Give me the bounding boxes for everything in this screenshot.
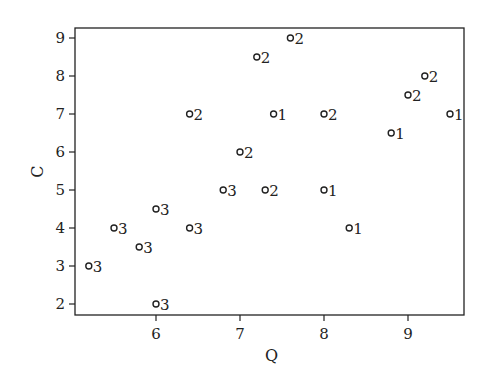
open-circle-marker (271, 111, 277, 117)
open-circle-marker (262, 187, 268, 193)
y-tick-label: 7 (55, 105, 65, 123)
point-group-label: 3 (118, 220, 128, 238)
open-circle-marker (237, 149, 243, 155)
point-group-label: 2 (412, 87, 422, 105)
y-tick-label: 9 (55, 29, 65, 47)
y-tick-label: 8 (55, 67, 65, 85)
data-point: 3 (187, 220, 204, 238)
open-circle-marker (287, 35, 293, 41)
open-circle-marker (153, 301, 159, 307)
point-group-label: 3 (143, 239, 153, 257)
x-tick-label: 8 (319, 325, 329, 343)
data-point: 2 (262, 182, 279, 200)
x-tick-label: 9 (403, 325, 413, 343)
point-group-label: 1 (328, 182, 338, 200)
open-circle-marker (447, 111, 453, 117)
plot-frame (75, 28, 464, 315)
open-circle-marker (220, 187, 226, 193)
point-group-label: 2 (244, 144, 254, 162)
data-point: 3 (153, 296, 170, 314)
data-point: 1 (271, 106, 288, 124)
data-point: 3 (86, 258, 103, 276)
open-circle-marker (388, 130, 394, 136)
point-group-label: 2 (194, 106, 204, 124)
data-point: 2 (237, 144, 254, 162)
point-group-label: 2 (294, 30, 304, 48)
y-tick-label: 4 (55, 219, 65, 237)
point-group-label: 1 (278, 106, 288, 124)
data-points: 33333323222122111221 (86, 30, 464, 314)
open-circle-marker (111, 225, 117, 231)
open-circle-marker (187, 225, 193, 231)
data-point: 1 (346, 220, 363, 238)
x-tick-label: 7 (235, 325, 245, 343)
point-group-label: 2 (269, 182, 279, 200)
data-point: 2 (287, 30, 304, 48)
point-group-label: 1 (395, 125, 405, 143)
point-group-label: 1 (454, 106, 464, 124)
point-group-label: 2 (429, 68, 439, 86)
data-point: 3 (153, 201, 170, 219)
y-tick-label: 5 (55, 181, 65, 199)
scatter-chart: 6789 23456789 Q C 33333323222122111221 (0, 0, 495, 385)
data-point: 2 (422, 68, 439, 86)
point-group-label: 3 (93, 258, 103, 276)
data-point: 2 (321, 106, 338, 124)
point-group-label: 1 (353, 220, 363, 238)
y-axis: 23456789 (55, 29, 75, 313)
open-circle-marker (187, 111, 193, 117)
open-circle-marker (321, 111, 327, 117)
point-group-label: 3 (160, 296, 170, 314)
open-circle-marker (405, 92, 411, 98)
data-point: 2 (254, 49, 271, 67)
x-axis: 6789 (151, 315, 413, 343)
point-group-label: 3 (194, 220, 204, 238)
open-circle-marker (153, 206, 159, 212)
data-point: 2 (405, 87, 422, 105)
point-group-label: 3 (160, 201, 170, 219)
data-point: 2 (187, 106, 204, 124)
open-circle-marker (346, 225, 352, 231)
y-tick-label: 6 (55, 143, 65, 161)
data-point: 3 (111, 220, 128, 238)
data-point: 1 (447, 106, 464, 124)
data-point: 1 (388, 125, 405, 143)
point-group-label: 2 (261, 49, 271, 67)
x-axis-label: Q (265, 346, 278, 365)
y-tick-label: 3 (55, 257, 65, 275)
open-circle-marker (136, 244, 142, 250)
data-point: 3 (220, 182, 237, 200)
open-circle-marker (254, 54, 260, 60)
point-group-label: 3 (227, 182, 237, 200)
y-axis-label: C (28, 165, 47, 177)
y-tick-label: 2 (55, 295, 65, 313)
x-tick-label: 6 (151, 325, 161, 343)
data-point: 1 (321, 182, 338, 200)
point-group-label: 2 (328, 106, 338, 124)
data-point: 3 (136, 239, 153, 257)
open-circle-marker (321, 187, 327, 193)
open-circle-marker (86, 263, 92, 269)
open-circle-marker (422, 73, 428, 79)
